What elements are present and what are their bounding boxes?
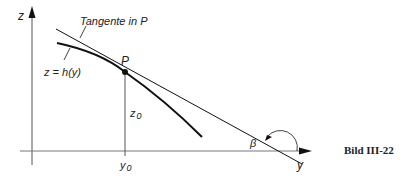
figure-caption: Bild III-22 — [344, 144, 394, 156]
curve-leader — [64, 48, 70, 60]
point-p-label: P — [121, 54, 129, 68]
angle-beta-label: β — [249, 137, 257, 149]
curve-h — [57, 43, 202, 137]
tangent-leader — [80, 26, 86, 38]
diagram: z y P Tangente in P z = h(y) z0 y0 β Bil… — [0, 0, 420, 181]
angle-arrow-icon — [265, 135, 272, 141]
tangent-label: Tangente in P — [80, 15, 148, 27]
y-axis-arrow-icon — [299, 148, 312, 155]
point-p — [122, 69, 128, 75]
angle-arc — [267, 131, 297, 151]
tangent-line — [56, 29, 302, 164]
y0-label: y0 — [119, 159, 132, 173]
z0-label: z0 — [129, 107, 142, 121]
z-axis-arrow-icon — [29, 6, 36, 18]
curve-label: z = h(y) — [43, 66, 81, 78]
y-axis-label: y — [296, 158, 304, 172]
z-axis-label: z — [17, 9, 24, 23]
